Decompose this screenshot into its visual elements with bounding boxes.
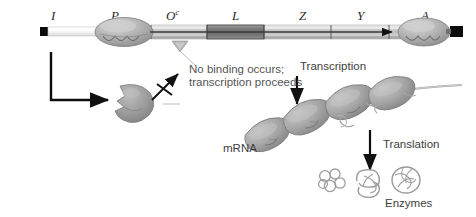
terminus-oval-A [398, 18, 463, 46]
blocked-binding-arrow [152, 74, 178, 100]
operator-site-triangle [172, 41, 188, 52]
no-binding-caption: No binding occurs; transcription proceed… [189, 63, 302, 89]
transcription-label: Transcription [300, 60, 366, 72]
repressor-production-arrow [51, 52, 108, 100]
mrna-label: mRNA [223, 142, 257, 154]
figure-canvas: I P Oc L Z Y A [0, 0, 476, 217]
enzyme-blob [357, 170, 380, 198]
promoter-oval-P [95, 18, 153, 47]
diagram-graphics [0, 0, 476, 217]
ribosome [365, 71, 420, 115]
enzyme-blob [392, 167, 420, 193]
enzymes-label: Enzymes [385, 197, 432, 209]
no-binding-line-2: transcription proceeds [189, 76, 302, 89]
translation-label: Translation [383, 138, 439, 150]
no-binding-line-1: No binding occurs; [189, 63, 302, 76]
enzyme-group [319, 167, 420, 197]
enzyme-blob [319, 169, 346, 192]
repressor-protein [115, 85, 154, 123]
